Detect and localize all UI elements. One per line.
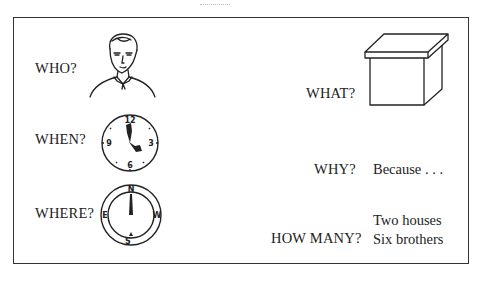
compass-point-w: W [153, 211, 162, 220]
how-many-answer-2: Six brothers [373, 230, 443, 249]
cropped-caption-fragment [200, 0, 230, 5]
compass-icon: N E S W [98, 182, 164, 248]
who-label: WHO? [35, 60, 77, 77]
where-label: WHERE? [35, 205, 94, 222]
clock-number-6: 6 [127, 161, 133, 170]
clock-number-3: 3 [148, 139, 154, 148]
compass-point-e: E [102, 211, 107, 220]
how-many-label: HOW MANY? [271, 230, 362, 247]
man-portrait-icon [85, 31, 160, 99]
how-many-answer-1: Two houses [373, 211, 442, 230]
box-icon [362, 32, 452, 110]
compass-point-n: N [128, 185, 135, 194]
clock-number-9: 9 [106, 139, 112, 148]
compass-point-s: S [125, 237, 131, 246]
why-answer: Because . . . [373, 160, 443, 179]
why-label: WHY? [314, 161, 356, 178]
when-label: WHEN? [35, 131, 86, 148]
what-label: WHAT? [306, 85, 355, 102]
clock-icon: 12 3 6 9 [98, 111, 162, 175]
